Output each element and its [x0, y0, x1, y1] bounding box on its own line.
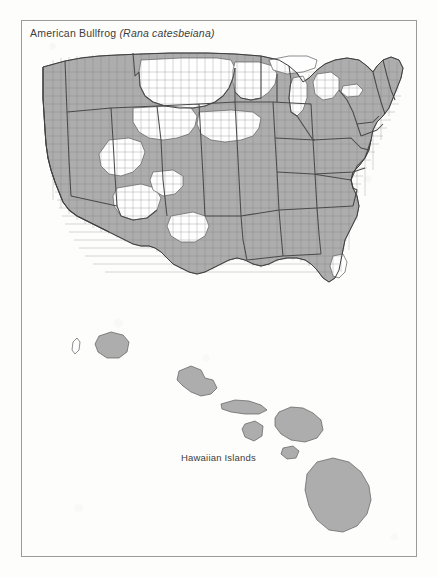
island-oahu — [177, 366, 217, 396]
island-kauai — [95, 332, 129, 358]
island-hawaii-big-island — [305, 458, 371, 532]
island-lanai — [242, 421, 263, 441]
mainland-usa — [43, 53, 403, 282]
island-niihau — [72, 338, 80, 354]
unshaded-west-texas — [167, 212, 209, 242]
island-kahoolawe — [281, 446, 299, 459]
island-molokai — [221, 400, 267, 414]
map-plate: American Bullfrog (Rana catesbeiana) — [0, 0, 438, 577]
unshaded-south-florida — [330, 254, 347, 278]
hawaiian-islands-label: Hawaiian Islands — [181, 452, 256, 463]
island-maui — [275, 407, 323, 442]
hawaiian-islands-inset — [72, 332, 371, 532]
distribution-map — [21, 20, 417, 557]
